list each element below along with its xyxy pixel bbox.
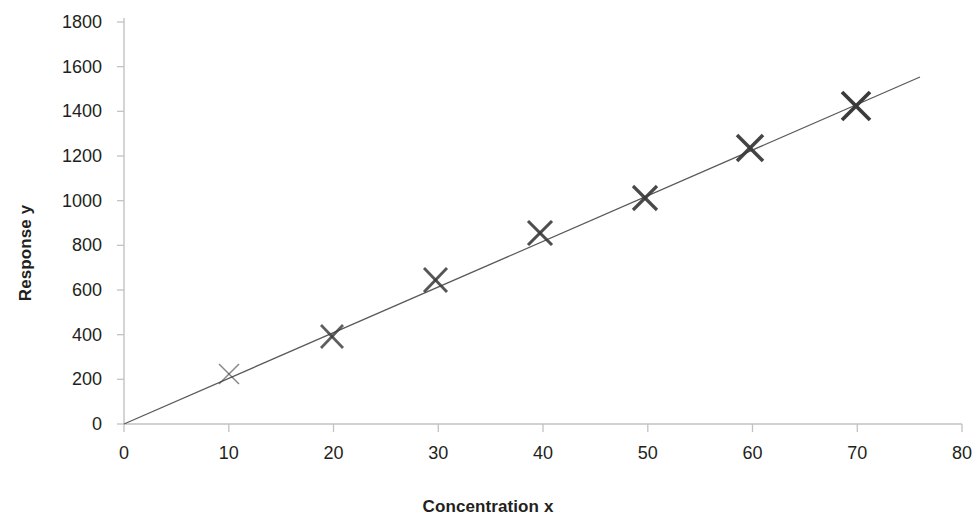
y-tick-label: 1000 [32, 191, 102, 212]
data-point [842, 92, 870, 120]
x-tick-label: 60 [723, 443, 783, 464]
y-tick-label: 800 [32, 235, 102, 256]
chart-container: Response y Concentration x 1800 1600 140… [0, 0, 976, 529]
x-tick-label: 50 [618, 443, 678, 464]
y-tick-label: 1400 [32, 101, 102, 122]
x-tick-label: 20 [304, 443, 364, 464]
x-tick-label: 80 [932, 443, 976, 464]
x-tick-label: 10 [199, 443, 259, 464]
y-axis-ticks [117, 22, 124, 424]
axis-lines [124, 18, 962, 424]
x-axis-title: Concentration x [0, 497, 976, 517]
y-tick-label: 600 [32, 280, 102, 301]
data-point [219, 364, 239, 384]
x-tick-label: 0 [94, 443, 154, 464]
x-tick-label: 30 [408, 443, 468, 464]
y-tick-label: 1600 [32, 57, 102, 78]
y-tick-label: 400 [32, 325, 102, 346]
x-axis-ticks [124, 424, 962, 432]
y-tick-label: 0 [32, 414, 102, 435]
regression-line [124, 77, 920, 424]
data-point [528, 221, 552, 245]
y-tick-label: 200 [32, 369, 102, 390]
data-point [633, 186, 657, 210]
x-tick-label: 70 [827, 443, 887, 464]
trendline [124, 77, 920, 424]
x-tick-label: 40 [513, 443, 573, 464]
data-point [737, 135, 763, 161]
y-tick-label: 1200 [32, 146, 102, 167]
y-tick-label: 1800 [32, 12, 102, 33]
